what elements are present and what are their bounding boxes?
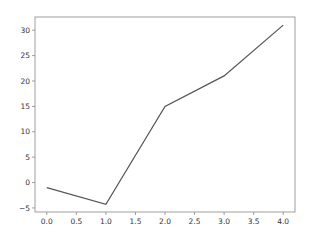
x-tick-label: 1.5 bbox=[129, 217, 141, 226]
y-tick-label: −5 bbox=[19, 204, 30, 213]
x-axis-ticks: 0.00.51.01.52.02.53.03.54.0 bbox=[41, 212, 290, 226]
x-tick-label: 1.0 bbox=[100, 217, 112, 226]
y-tick-label: 10 bbox=[20, 127, 30, 136]
x-tick-label: 3.5 bbox=[248, 217, 260, 226]
y-tick-label: 20 bbox=[20, 77, 30, 86]
x-tick-label: 0.5 bbox=[70, 217, 82, 226]
x-tick-label: 4.0 bbox=[277, 217, 289, 226]
y-tick-label: 30 bbox=[20, 26, 30, 35]
x-tick-label: 2.0 bbox=[159, 217, 171, 226]
y-tick-label: 15 bbox=[20, 102, 30, 111]
line-chart: 0.00.51.01.52.02.53.03.54.0 −50510152025… bbox=[0, 0, 313, 238]
plot-area bbox=[35, 17, 295, 212]
x-tick-label: 0.0 bbox=[41, 217, 53, 226]
y-tick-label: 25 bbox=[20, 51, 30, 60]
y-tick-label: 0 bbox=[25, 178, 30, 187]
y-axis-ticks: −5051015202530 bbox=[19, 26, 35, 213]
x-tick-label: 3.0 bbox=[218, 217, 230, 226]
x-tick-label: 2.5 bbox=[189, 217, 201, 226]
y-tick-label: 5 bbox=[25, 153, 30, 162]
